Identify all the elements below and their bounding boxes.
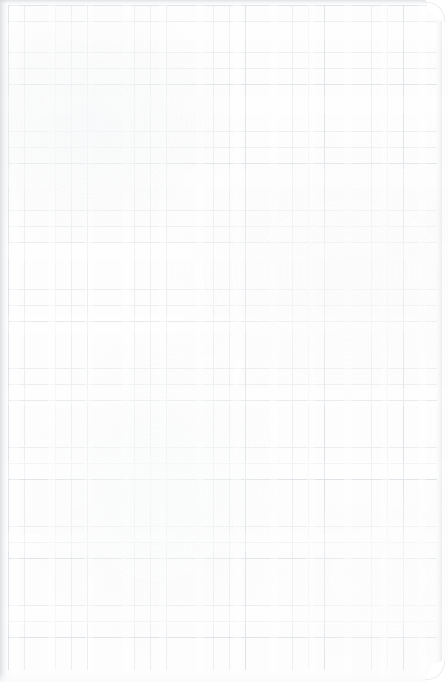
paper-sheet: [0, 0, 448, 682]
scan-streak-vertical-artifact: [0, 0, 448, 682]
scanned-page-viewport: [0, 0, 448, 682]
